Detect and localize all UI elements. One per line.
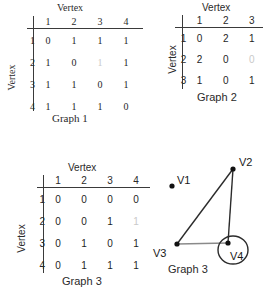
matrix-col-header: 4 [123,173,149,188]
matrix-cell: 1 [113,51,139,73]
graph1-top-axis-label: Vertex [57,2,83,13]
matrix-cell: 0 [71,210,97,232]
figure-root: Vertex Vertex 123410111210113110141110 G… [0,0,265,305]
matrix-row: 10111 [13,29,139,51]
matrix-cell: 0 [97,188,123,210]
matrix-cell: 0 [123,188,149,210]
matrix-row: 3101 [165,70,265,91]
matrix-cell: 0 [45,232,71,254]
matrix-cell: 0 [45,188,71,210]
matrix-cell: 0 [97,232,123,254]
matrix-cell: 1 [113,73,139,95]
matrix-cell: 0 [35,29,61,51]
graph-edge-v2-v4 [228,169,233,243]
matrix-cell: 1 [35,51,61,73]
matrix-col-header: 3 [97,173,123,188]
matrix-row-header: 4 [23,254,45,276]
matrix-header-row: 1234 [23,173,149,188]
matrix-row-header: 3 [13,73,35,95]
matrix-cell: 1 [61,29,87,51]
matrix-row-header: 2 [23,210,45,232]
matrix-row-header: 1 [165,28,186,49]
matrix-cell: 1 [186,70,212,91]
graph-node-label-v1: V1 [177,174,190,186]
matrix-col-header: 2 [71,173,97,188]
matrix-corner-cell [23,173,45,188]
graph2-matrix-block: Vertex Vertex 123102122003101 Graph 2 [165,0,265,120]
matrix-cell: 1 [239,28,265,49]
graph3-diagram-caption: Graph 3 [168,263,208,275]
graph-node-v1 [169,183,174,188]
graph-node-v2 [230,166,235,171]
matrix-row-header: 3 [23,232,45,254]
matrix-cell: 1 [35,73,61,95]
matrix-cell: 0 [61,51,87,73]
matrix-cell: 1 [123,254,149,276]
matrix-col-header: 3 [87,13,113,29]
matrix-row-header: 1 [23,188,45,210]
graph3-diagram-canvas [150,155,265,305]
matrix-row: 1021 [165,28,265,49]
matrix-row-header: 3 [165,70,186,91]
matrix-corner-cell [165,13,186,28]
matrix-cell: 1 [113,29,139,51]
matrix-row: 21011 [13,51,139,73]
graph2-matrix-table: 123102122003101 [165,13,265,91]
matrix-row-header: 2 [165,49,186,70]
matrix-col-header: 3 [239,13,265,28]
matrix-row: 40111 [23,254,149,276]
matrix-col-header: 1 [35,13,61,29]
matrix-cell: 1 [97,254,123,276]
graph3-top-axis-label: Vertex [68,162,96,173]
graph-node-v4 [225,240,230,245]
graph3-matrix-block: Vertex Vertex 123410000200113010140111 G… [10,160,150,305]
matrix-col-header: 2 [213,13,239,28]
matrix-cell: 0 [87,73,113,95]
matrix-row: 31101 [13,73,139,95]
matrix-cell: 2 [186,49,212,70]
matrix-cell: 1 [239,70,265,91]
matrix-row-header: 2 [13,51,35,73]
graph1-matrix-block: Vertex Vertex 123410111210113110141110 G… [0,0,145,130]
matrix-header-row: 1234 [13,13,139,29]
matrix-cell: 1 [71,254,97,276]
matrix-cell: 0 [45,254,71,276]
graph2-caption: Graph 2 [197,91,237,103]
matrix-cell: 0 [239,49,265,70]
matrix-corner-cell [13,13,35,29]
graph1-caption: Graph 1 [52,112,88,124]
graph-node-label-v3: V3 [153,247,166,259]
matrix-header-row: 123 [165,13,265,28]
matrix-cell: 1 [71,232,97,254]
matrix-cell: 0 [186,28,212,49]
matrix-cell: 1 [61,73,87,95]
matrix-cell: 1 [97,210,123,232]
matrix-cell: 2 [213,28,239,49]
matrix-cell: 1 [123,232,149,254]
matrix-row: 20011 [23,210,149,232]
matrix-row: 10000 [23,188,149,210]
matrix-col-header: 1 [45,173,71,188]
matrix-cell: 0 [213,49,239,70]
matrix-cell: 0 [113,95,139,117]
matrix-col-header: 4 [113,13,139,29]
matrix-cell: 1 [87,95,113,117]
matrix-cell: 0 [45,210,71,232]
graph-node-label-v2: V2 [239,156,252,168]
matrix-cell: 1 [87,51,113,73]
matrix-cell: 1 [123,210,149,232]
matrix-row-header: 4 [13,95,35,117]
matrix-row-header: 1 [13,29,35,51]
graph-node-label-v4: V4 [230,250,243,262]
graph3-matrix-table: 123410000200113010140111 [23,173,149,276]
graph3-diagram: V1V2V3V4 Graph 3 [150,155,265,305]
graph-node-v3 [174,241,179,246]
matrix-col-header: 1 [186,13,212,28]
graph3-matrix-caption: Graph 3 [62,275,102,287]
graph2-top-axis-label: Vertex [202,2,230,13]
matrix-cell: 1 [87,29,113,51]
matrix-cell: 0 [71,188,97,210]
matrix-cell: 0 [213,70,239,91]
matrix-col-header: 2 [61,13,87,29]
matrix-row: 2200 [165,49,265,70]
